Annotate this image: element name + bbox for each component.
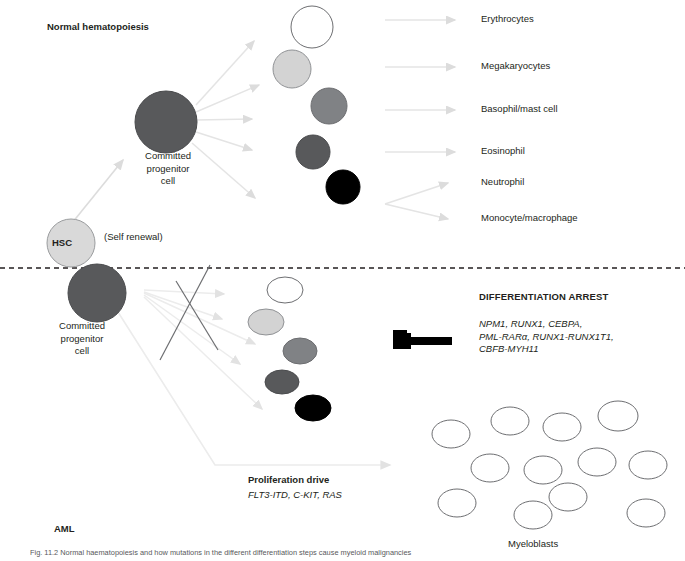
arrows-cells-to-labels: [385, 20, 455, 219]
diagram-vector-layer: [0, 0, 685, 561]
cell-eosinophil: [296, 135, 330, 169]
proliferation-drive-title: Proliferation drive: [248, 474, 329, 486]
committed-progenitor-label-top: Committed progenitor cell: [138, 150, 198, 188]
myeloblast: [629, 451, 667, 479]
blast-cell-neutrophilic: [295, 395, 331, 421]
lineage-label-erythrocytes: Erythrocytes: [481, 13, 534, 25]
myeloblast: [578, 448, 616, 476]
myeloblast: [627, 499, 665, 527]
lineage-label-eosinophil: Eosinophil: [481, 145, 525, 157]
myeloblast: [549, 483, 587, 511]
lineage-label-basophil-mast-cell: Basophil/mast cell: [481, 103, 558, 115]
hsc-label: HSC: [52, 237, 72, 249]
differentiation-arrest-genes: NPM1, RUNX1, CEBPA, PML-RARα, RUNX1-RUNX…: [479, 318, 614, 356]
self-renewal-label: (Self renewal): [104, 231, 163, 243]
myeloblast: [524, 456, 562, 484]
figure-caption: Fig. 11.2 Normal haematopoiesis and how …: [30, 548, 680, 558]
blast-cell-basophilic: [283, 338, 317, 364]
blast-cell-eosinophilic: [265, 370, 299, 394]
arrow-hsc-to-progenitor: [68, 160, 123, 228]
arrows-progenitor-to-blasts: [144, 290, 262, 409]
myeloblast: [543, 413, 581, 441]
arrow-proliferation-drive: [118, 312, 390, 465]
cell-erythrocyte: [291, 6, 333, 48]
committed-progenitor-label-bottom: Committed progenitor cell: [52, 320, 112, 358]
cell-committed-progenitor-bottom: [68, 264, 126, 322]
lineage-label-megakaryocytes: Megakaryocytes: [481, 60, 550, 72]
lineage-label-neutrophil: Neutrophil: [481, 176, 524, 188]
arrows-progenitor-to-lineages: [192, 41, 259, 198]
hematopoiesis-aml-figure: Normal hematopoiesis HSC (Self renewal) …: [0, 0, 685, 561]
black-block-arrow-icon: [393, 330, 452, 349]
myeloblast: [491, 407, 529, 435]
myeloblast: [432, 420, 470, 448]
myeloblast: [438, 489, 476, 517]
myeloblast: [598, 401, 638, 431]
section-title-aml: AML: [54, 523, 75, 535]
blast-cell-erythroid: [267, 277, 303, 303]
myeloblast: [471, 454, 509, 482]
myeloblast-group: [432, 401, 667, 529]
cell-committed-progenitor-top: [135, 91, 197, 153]
blast-cell-megakaryocytic: [248, 309, 284, 335]
proliferation-drive-genes: FLT3-ITD, C-KIT, RAS: [248, 489, 342, 501]
cell-megakaryocyte: [273, 50, 311, 88]
section-title-normal-hematopoiesis: Normal hematopoiesis: [47, 21, 149, 33]
cell-basophil: [311, 88, 347, 124]
lineage-label-monocyte-macrophage: Monocyte/macrophage: [481, 212, 578, 224]
myeloblast: [514, 501, 552, 529]
differentiation-arrest-title: DIFFERENTIATION ARREST: [479, 291, 608, 303]
cell-neutrophil: [326, 170, 360, 204]
